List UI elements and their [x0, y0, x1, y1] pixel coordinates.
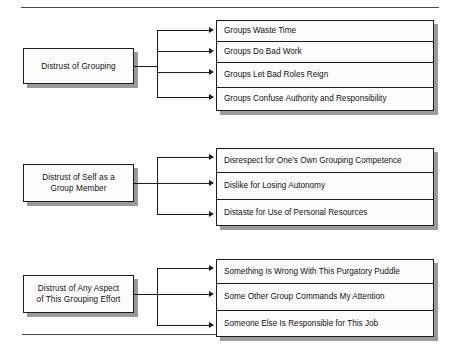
child-node-label: Disrespect for One's Own Grouping Compet…	[224, 156, 402, 166]
parent-node-label-line2: Group Member	[50, 183, 106, 194]
child-stack-2: Disrespect for One's Own Grouping Compet…	[216, 148, 434, 226]
child-node[interactable]: Groups Confuse Authority and Responsibil…	[217, 88, 433, 110]
child-node-label: Groups Confuse Authority and Responsibil…	[224, 94, 386, 104]
parent-node-distrust-of-grouping[interactable]: Distrust of Grouping	[23, 48, 134, 84]
diagram-group-2: Distrust of Self as a Group Member Disre…	[0, 145, 459, 240]
child-node-label: Distaste for Use of Personal Resources	[224, 208, 367, 218]
child-node[interactable]: Distaste for Use of Personal Resources	[217, 200, 433, 225]
connector-branch-1-1	[157, 30, 210, 31]
parent-node-distrust-of-self[interactable]: Distrust of Self as a Group Member	[23, 164, 134, 202]
arrowhead-3-3	[209, 322, 214, 328]
arrowhead-3-2	[209, 291, 214, 297]
connector-spine-2	[157, 157, 158, 215]
child-node-label: Something Is Wrong With This Purgatory P…	[224, 267, 400, 277]
arrowhead-1-1	[209, 27, 214, 33]
arrowhead-2-2	[209, 180, 214, 186]
arrowhead-1-4	[209, 94, 214, 100]
child-node-label: Dislike for Losing Autonomy	[224, 181, 325, 191]
parent-node-distrust-of-any-aspect[interactable]: Distrust of Any Aspect of This Grouping …	[23, 275, 134, 313]
connector-branch-2-3	[157, 214, 210, 215]
child-node[interactable]: Disrespect for One's Own Grouping Compet…	[217, 149, 433, 173]
connector-branch-3-2	[157, 294, 210, 295]
child-node[interactable]: Some Other Group Commands My Attention	[217, 284, 433, 311]
diagram-canvas: Distrust of Grouping Groups Waste Time G…	[0, 0, 459, 351]
connector-spine-1	[157, 30, 158, 98]
child-node[interactable]: Dislike for Losing Autonomy	[217, 173, 433, 200]
connector-stub-2	[134, 183, 157, 184]
diagram-group-3: Distrust of Any Aspect of This Grouping …	[0, 253, 459, 348]
parent-node-label-line2: of This Grouping Effort	[37, 294, 121, 305]
parent-node-label-line1: Distrust of Self as a	[42, 172, 115, 183]
connector-branch-1-4	[157, 97, 210, 98]
arrowhead-3-1	[209, 265, 214, 271]
child-node-label: Someone Else Is Responsible for This Job	[224, 319, 378, 329]
parent-node-label: Distrust of Grouping	[41, 61, 115, 72]
arrowhead-1-2	[209, 48, 214, 54]
connector-stub-1	[134, 66, 157, 67]
child-node[interactable]: Something Is Wrong With This Purgatory P…	[217, 260, 433, 284]
parent-node-label-line1: Distrust of Any Aspect	[38, 283, 119, 294]
child-node[interactable]: Someone Else Is Responsible for This Job	[217, 311, 433, 336]
child-stack-3: Something Is Wrong With This Purgatory P…	[216, 259, 434, 337]
arrowhead-2-3	[209, 211, 214, 217]
connector-branch-2-1	[157, 157, 210, 158]
arrowhead-2-1	[209, 154, 214, 160]
connector-branch-3-1	[157, 268, 210, 269]
diagram-group-1: Distrust of Grouping Groups Waste Time G…	[0, 0, 459, 120]
child-node-label: Groups Waste Time	[224, 26, 296, 36]
connector-branch-2-2	[157, 183, 210, 184]
connector-branch-1-3	[157, 72, 210, 73]
child-node[interactable]: Groups Do Bad Work	[217, 42, 433, 63]
connector-branch-3-3	[157, 325, 210, 326]
connector-stub-3	[134, 294, 157, 295]
connector-spine-3	[157, 268, 158, 326]
child-node-label: Groups Do Bad Work	[224, 47, 302, 57]
child-node[interactable]: Groups Let Bad Roles Reign	[217, 63, 433, 88]
child-node-label: Some Other Group Commands My Attention	[224, 292, 385, 302]
child-node-label: Groups Let Bad Roles Reign	[224, 70, 328, 80]
connector-branch-1-2	[157, 51, 210, 52]
child-node[interactable]: Groups Waste Time	[217, 21, 433, 42]
child-stack-1: Groups Waste Time Groups Do Bad Work Gro…	[216, 20, 434, 111]
arrowhead-1-3	[209, 69, 214, 75]
